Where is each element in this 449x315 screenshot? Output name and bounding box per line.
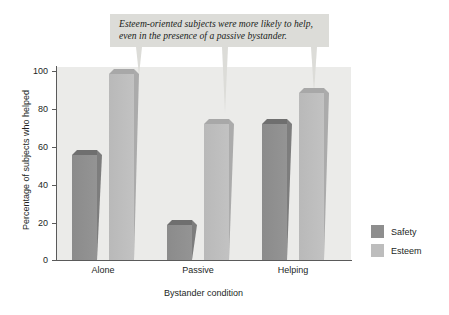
callout-pointer-passive [222,47,228,113]
bar-alone-esteem [109,74,134,260]
legend-item-esteem: Esteem [371,241,422,260]
bar-side-face [287,119,292,260]
legend: Safety Esteem [371,222,422,260]
bar-top-face-2 [267,119,287,124]
callout-text: Esteem-oriented subjects were more likel… [119,18,320,43]
x-tick-label-alone: Alone [63,265,143,275]
bar-face [109,74,134,260]
bar-face [204,124,229,260]
x-tick-label-passive: Passive [158,265,238,275]
y-tick-label-0: 0 [18,255,48,265]
bar-top-face-2 [77,150,97,155]
bar-alone-safety [72,155,97,260]
bar-face [167,225,192,260]
bar-face [262,124,287,260]
bar-face [299,93,324,260]
bar-passive-esteem [204,124,229,260]
bar-helping-safety [262,124,287,260]
bar-passive-safety [167,225,192,260]
callout-annotation: Esteem-oriented subjects were more likel… [110,14,329,47]
bar-helping-esteem [299,93,324,260]
x-tick-label-helping: Helping [253,265,333,275]
x-axis-line [56,260,352,261]
bar-side-face [134,69,139,260]
x-axis-title: Bystander condition [56,288,351,298]
callout-pointer-helping [311,47,317,93]
legend-swatch-esteem [371,244,384,257]
bar-side-face [97,150,102,260]
bar-chart-figure: Esteem-oriented subjects were more likel… [0,0,449,315]
legend-label-esteem: Esteem [391,246,422,256]
bar-top-face-2 [304,88,324,93]
bar-side-face [229,119,234,260]
y-axis-line [56,66,57,261]
y-axis-title: Percentage of subjects who helped [21,70,31,250]
bar-top-face-2 [114,69,134,74]
bar-side-face [324,88,329,260]
bar-top-face-2 [172,220,192,225]
legend-label-safety: Safety [391,227,417,237]
bar-side-face [192,220,197,260]
legend-item-safety: Safety [371,222,422,241]
bar-face [72,155,97,260]
legend-swatch-safety [371,225,384,238]
bar-top-face-2 [209,119,229,124]
